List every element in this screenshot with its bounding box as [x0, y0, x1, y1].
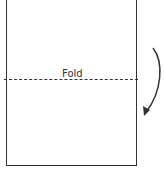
- curved-arrow-icon: [0, 0, 164, 170]
